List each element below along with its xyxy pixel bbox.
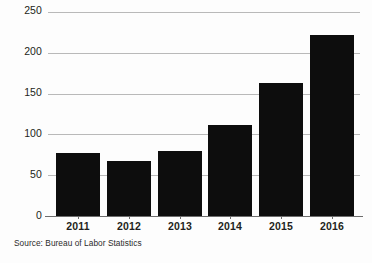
y-axis-tick-150: 150: [0, 87, 42, 98]
x-tick-mark-2011: [78, 216, 79, 219]
bar-2013: [158, 151, 202, 216]
x-axis-label-2014: 2014: [204, 220, 256, 233]
bar-2011: [56, 153, 100, 216]
plot-area: [48, 12, 360, 216]
bar-chart-figure: 250 200 150 100 50 0 2011 2012 2013 2014…: [0, 0, 372, 263]
y-axis-tick-250: 250: [0, 5, 42, 16]
x-axis-label-2011: 2011: [52, 220, 104, 233]
x-axis-label-2013: 2013: [154, 220, 206, 233]
x-tick-mark-2015: [281, 216, 282, 219]
bar-2014: [208, 125, 252, 216]
y-axis-tick-100: 100: [0, 128, 42, 139]
bar-2012: [107, 161, 151, 216]
y-axis-tick-50: 50: [0, 169, 42, 180]
y-axis-tick-200: 200: [0, 46, 42, 57]
x-axis-label-2015: 2015: [255, 220, 307, 233]
x-axis-line: [45, 216, 363, 217]
x-axis-labels: 2011 2012 2013 2014 2015 2016: [0, 220, 372, 236]
x-tick-mark-2012: [129, 216, 130, 219]
x-axis-label-2016: 2016: [306, 220, 358, 233]
x-tick-mark-2016: [332, 216, 333, 219]
gridline-250: [48, 12, 360, 13]
source-note: Source: Bureau of Labor Statistics: [14, 238, 142, 249]
x-tick-mark-2013: [180, 216, 181, 219]
x-axis-label-2012: 2012: [103, 220, 155, 233]
x-tick-mark-2014: [230, 216, 231, 219]
bar-2015: [259, 83, 303, 216]
bar-2016: [310, 35, 354, 216]
